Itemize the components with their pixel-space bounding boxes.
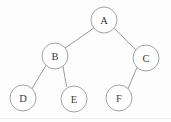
tree-edge-b-e [63,66,67,86]
tree-node-a: A [91,7,117,33]
nodes-layer: ABCDEF [10,7,159,112]
tree-edge-c-f [128,67,137,88]
tree-node-d: D [10,85,36,111]
node-label-e: E [71,94,77,105]
tree-node-e: E [61,86,87,112]
node-label-a: A [100,15,108,26]
node-label-c: C [142,53,149,64]
tree-canvas: ABCDEF [0,0,171,122]
binary-tree-diagram: ABCDEF [0,0,171,122]
tree-node-b: B [42,43,68,69]
tree-edge-b-d [32,65,46,88]
tree-node-c: C [133,45,159,71]
tree-node-f: F [106,85,132,111]
node-label-d: D [19,93,27,104]
node-label-f: F [116,93,122,104]
node-label-b: B [51,51,58,62]
tree-edge-a-c [114,28,136,50]
tree-edge-a-b [65,28,94,48]
